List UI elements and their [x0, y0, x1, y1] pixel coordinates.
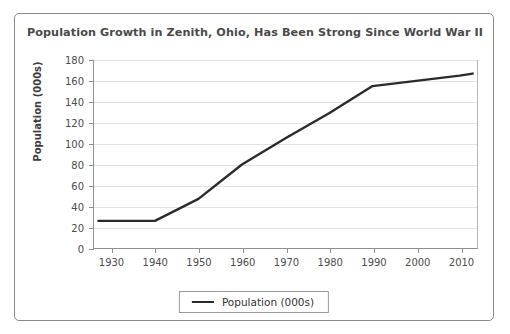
- x-tick-mark: [112, 248, 113, 253]
- y-tick-label: 0: [34, 244, 84, 255]
- y-tick-label: 100: [34, 139, 84, 150]
- legend-line-swatch-icon: [192, 301, 214, 304]
- x-tick-mark: [243, 248, 244, 253]
- y-tick-label: 140: [34, 97, 84, 108]
- legend-item-label: Population (000s): [222, 296, 314, 308]
- y-tick-label: 20: [34, 223, 84, 234]
- y-tick-label: 120: [34, 118, 84, 129]
- x-tick-label: 1930: [88, 257, 136, 268]
- y-tick-label: 160: [34, 76, 84, 87]
- chart-legend: Population (000s): [179, 291, 329, 313]
- x-tick-label: 2010: [438, 257, 486, 268]
- y-tick-label: 60: [34, 181, 84, 192]
- x-tick-mark: [418, 248, 419, 253]
- plot-area: 020406080100120140160180 193019401950196…: [93, 60, 478, 249]
- y-tick-label: 40: [34, 202, 84, 213]
- series-polyline: [98, 74, 472, 221]
- x-tick-label: 2000: [394, 257, 442, 268]
- series-line-population: [94, 60, 477, 248]
- x-tick-label: 1960: [219, 257, 267, 268]
- y-tick-label: 80: [34, 160, 84, 171]
- y-axis-label: Population (000s): [32, 52, 43, 172]
- chart-frame: Population Growth in Zenith, Ohio, Has B…: [14, 13, 494, 321]
- x-tick-mark: [462, 248, 463, 253]
- chart-title: Population Growth in Zenith, Ohio, Has B…: [15, 26, 495, 39]
- x-tick-label: 1990: [350, 257, 398, 268]
- x-tick-mark: [199, 248, 200, 253]
- x-tick-mark: [287, 248, 288, 253]
- x-tick-mark: [155, 248, 156, 253]
- x-tick-mark: [330, 248, 331, 253]
- x-tick-label: 1950: [175, 257, 223, 268]
- x-tick-mark: [374, 248, 375, 253]
- x-tick-label: 1980: [306, 257, 354, 268]
- y-tick-mark: [89, 249, 94, 250]
- x-tick-label: 1970: [263, 257, 311, 268]
- y-tick-label: 180: [34, 55, 84, 66]
- x-tick-label: 1940: [131, 257, 179, 268]
